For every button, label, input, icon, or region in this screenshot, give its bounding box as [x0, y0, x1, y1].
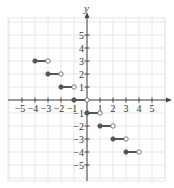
- open-endpoint-icon: [137, 150, 141, 154]
- step-segment: [59, 85, 76, 89]
- open-endpoint-icon: [46, 59, 50, 63]
- y-tick-label: 5: [79, 30, 84, 41]
- y-tick-label: −1: [73, 108, 84, 119]
- open-endpoint-icon: [59, 72, 63, 76]
- step-segment: [98, 124, 115, 128]
- y-tick-label: −4: [73, 147, 84, 158]
- closed-endpoint-icon: [111, 137, 115, 141]
- x-tick-label: 3: [124, 103, 129, 114]
- x-tick-label: −4: [28, 103, 39, 114]
- y-tick-label: 2: [79, 69, 84, 80]
- y-tick-label: 1: [79, 82, 84, 93]
- y-tick-label: −5: [73, 160, 84, 171]
- x-tick-label: 2: [111, 103, 116, 114]
- open-endpoint-icon: [98, 111, 102, 115]
- step-segment: [111, 137, 128, 141]
- closed-endpoint-icon: [124, 150, 128, 154]
- x-tick-label: −2: [54, 103, 65, 114]
- step-segment: [33, 59, 50, 63]
- step-segment: [85, 111, 102, 115]
- x-tick-label: 5: [150, 103, 155, 114]
- y-tick-label: 4: [79, 43, 84, 54]
- closed-endpoint-icon: [98, 124, 102, 128]
- axes: x y: [8, 2, 174, 181]
- open-endpoint-icon: [85, 98, 89, 102]
- x-tick-label: −3: [41, 103, 52, 114]
- closed-endpoint-icon: [72, 98, 76, 102]
- closed-endpoint-icon: [85, 111, 89, 115]
- step-function-graph: x y −5−4−3−2−11234554321−1−2−3−4−5: [0, 0, 174, 188]
- y-axis-label: y: [83, 2, 89, 14]
- closed-endpoint-icon: [33, 59, 37, 63]
- step-segment: [46, 72, 63, 76]
- x-axis-arrow-icon: [166, 98, 172, 103]
- y-tick-label: −3: [73, 134, 84, 145]
- closed-endpoint-icon: [46, 72, 50, 76]
- x-axis-label: x: [173, 93, 174, 105]
- x-tick-label: −5: [15, 103, 26, 114]
- closed-endpoint-icon: [59, 85, 63, 89]
- open-endpoint-icon: [124, 137, 128, 141]
- y-tick-label: 3: [79, 56, 84, 67]
- y-tick-label: −2: [73, 121, 84, 132]
- step-segment: [72, 98, 89, 102]
- open-endpoint-icon: [72, 85, 76, 89]
- open-endpoint-icon: [111, 124, 115, 128]
- x-tick-label: 4: [137, 103, 142, 114]
- step-segment: [124, 150, 141, 154]
